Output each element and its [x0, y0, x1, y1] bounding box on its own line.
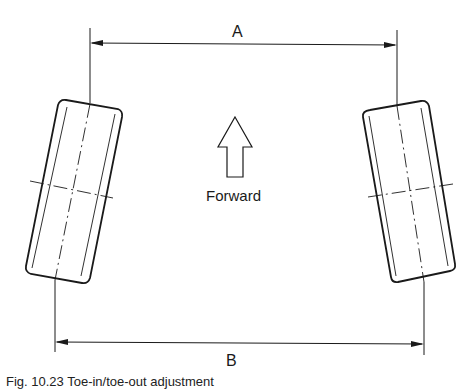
dimension-label-b: B [226, 352, 237, 369]
dimension-line-a [90, 40, 397, 48]
right-wheel-centerline [397, 106, 424, 282]
arrowhead-right-icon [384, 42, 397, 48]
up-arrow-outline-icon [218, 117, 252, 177]
forward-label: Forward [206, 187, 261, 204]
arrowhead-left-icon [55, 339, 68, 345]
figure-caption: Fig. 10.23 Toe-in/toe-out adjustment [6, 374, 214, 389]
arrowhead-left-icon [90, 40, 103, 46]
dimension-label-a: A [232, 23, 243, 40]
dimension-line-b [55, 339, 424, 347]
arrowhead-right-icon [411, 341, 424, 347]
left-wheel [26, 100, 122, 283]
right-wheel [363, 101, 455, 282]
